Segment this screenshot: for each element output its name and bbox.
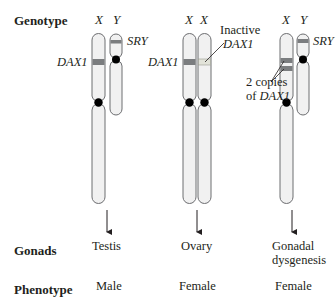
chromosome-label-x: X [185,13,193,26]
chromosome-label-y: Y [300,13,307,26]
gonads-value-col1: Testis [92,239,121,253]
sry-band [111,40,122,44]
column-2-karyotype [183,34,224,233]
sry-band [298,39,309,43]
phenotype-value-col2: Female [179,279,216,293]
annotation-inactive: Inactive [220,23,260,37]
x-chromosome-col3 [280,34,293,204]
column-1-karyotype [92,34,122,233]
dax1-band [184,59,196,65]
gene-label-sry: SRY [127,35,148,48]
gene-label-dax1: DAX1 [57,56,88,69]
sex-determination-diagram: Genotype Gonads Phenotype X Y SRY DAX1 T… [0,0,336,300]
centromere [112,56,120,64]
chromosome-label-y: Y [113,13,120,26]
annotation-inactive-gene: DAX1 [223,37,254,51]
gene-label-dax1: DAX1 [148,56,179,69]
phenotype-value-col3: Female [275,279,312,293]
x-chromosome-col2-a [183,34,196,204]
gonads-value-col3-line2: dysgenesis [272,253,326,267]
row-label-phenotype: Phenotype [14,283,73,296]
annotation-two-copies: 2 copies [246,75,287,89]
x-chromosome-col2-b [198,34,211,204]
inactive-dax1-band [199,59,211,65]
y-chromosome-col3 [297,34,309,115]
gonads-value-col2: Ovary [181,239,212,253]
x-chromosome-col1 [92,34,105,204]
column-3-karyotype [271,34,309,233]
chromosome-label-x: X [200,13,208,26]
row-label-gonads: Gonads [14,244,57,257]
annotation-dax1-gene: DAX1 [260,89,291,103]
chromosome-label-x: X [282,13,290,26]
dax1-band [93,59,105,65]
gonads-value-col3-line1: Gonadal [272,239,314,253]
dax1-band-copy-1 [281,58,293,63]
row-label-genotype: Genotype [14,14,67,27]
gene-label-sry: SRY [313,35,334,48]
annotation-of-prefix: of [246,89,260,103]
phenotype-value-col1: Male [96,279,122,293]
centromere [185,98,193,106]
centromere [200,98,208,106]
y-chromosome-col1 [110,34,122,115]
centromere [299,56,307,64]
annotation-of-dax1: of DAX1 [246,89,290,103]
centromere [94,98,102,106]
chromosome-label-x: X [95,13,103,26]
